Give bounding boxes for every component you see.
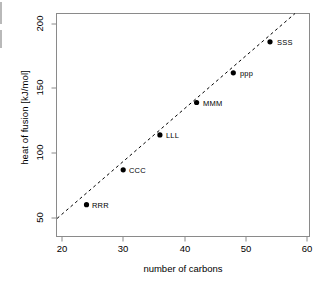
data-point-ccc (121, 167, 126, 172)
data-point-sss (267, 39, 272, 44)
scatter-plot-figure: heat of fusion [kJ/mol] number of carbon… (0, 0, 329, 284)
data-point-label-lll: LLL (166, 131, 179, 140)
data-point-label-ccc: CCC (129, 166, 146, 175)
data-point-ppp (231, 70, 236, 75)
data-point-markers (84, 39, 273, 207)
data-point-label-sss: SSS (277, 38, 293, 47)
y-axis-ticks (52, 24, 57, 218)
data-point-rrr (84, 202, 89, 207)
trendline (57, 14, 295, 219)
data-point-label-mmm: MMM (203, 99, 222, 108)
x-axis-ticks (62, 237, 307, 242)
data-point-lll (157, 132, 162, 137)
data-point-mmm (194, 100, 199, 105)
data-point-label-rrr: RRR (92, 201, 109, 210)
data-point-label-ppp: ppp (240, 69, 253, 78)
